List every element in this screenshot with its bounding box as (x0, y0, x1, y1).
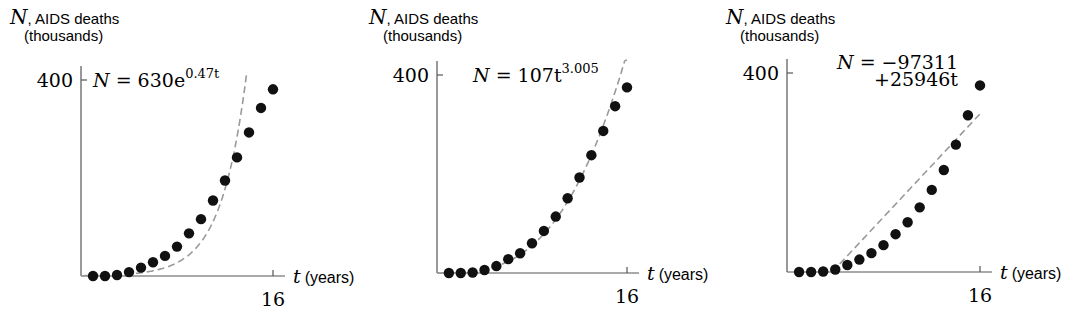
fit-equation-line2: +25946t (874, 68, 958, 90)
x-tick-label: 16 (968, 284, 992, 306)
x-axis-label: t(years) (647, 262, 708, 284)
chart-svg: N, AIDS deaths(thousands)40016t(years)N … (0, 0, 359, 321)
y-axis-unit: (thousands) (740, 27, 819, 44)
data-point (914, 202, 924, 212)
data-point (830, 264, 840, 274)
y-axis-label: N, AIDS deaths (9, 5, 119, 29)
data-point (172, 241, 182, 251)
data-point (551, 211, 561, 221)
data-point (806, 267, 816, 277)
data-point (136, 262, 146, 272)
data-point (975, 80, 985, 90)
chart-linear-fit: N, AIDS deaths(thousands)40016t(years)N … (718, 0, 1077, 321)
data-point (610, 101, 620, 111)
chart-power-fit: N, AIDS deaths(thousands)40016t(years)N … (359, 0, 718, 321)
data-point (124, 267, 134, 277)
data-point (963, 110, 973, 120)
data-point (244, 127, 254, 137)
x-axis-label: t(years) (293, 265, 354, 287)
fit-equation: N = 630e0.47t (92, 66, 220, 91)
chart-svg: N, AIDS deaths(thousands)40016t(years)N … (718, 0, 1077, 321)
data-point (574, 172, 584, 182)
data-point (539, 226, 549, 236)
y-tick-label: 400 (743, 62, 779, 84)
y-tick-label: 400 (393, 64, 429, 86)
chart-exponential-fit: N, AIDS deaths(thousands)40016t(years)N … (0, 0, 359, 321)
data-point (268, 84, 278, 94)
data-point (854, 254, 864, 264)
data-point (890, 229, 900, 239)
fit-equation: N = 107t3.005 (472, 61, 599, 86)
data-point (112, 270, 122, 280)
y-axis-label: N, AIDS deaths (725, 5, 835, 29)
data-point (527, 238, 537, 248)
data-point (878, 240, 888, 250)
data-point (232, 152, 242, 162)
data-point (220, 175, 230, 185)
data-point (467, 267, 477, 277)
data-point (256, 103, 266, 113)
data-point (794, 267, 804, 277)
data-point (503, 254, 513, 264)
y-tick-label: 400 (37, 69, 73, 91)
data-point (208, 195, 218, 205)
data-point (598, 126, 608, 136)
data-point (160, 251, 170, 261)
data-point (444, 268, 454, 278)
y-axis-unit: (thousands) (383, 27, 462, 44)
data-point (491, 261, 501, 271)
x-tick-label: 16 (261, 288, 285, 310)
fit-curve (832, 114, 980, 272)
y-axis-label: N, AIDS deaths (368, 5, 478, 29)
data-point (100, 271, 110, 281)
data-point (622, 82, 632, 92)
data-point (586, 150, 596, 160)
data-point (818, 266, 828, 276)
y-axis-unit: (thousands) (24, 27, 103, 44)
data-point (902, 217, 912, 227)
data-point (562, 193, 572, 203)
data-point (196, 214, 206, 224)
data-point (951, 139, 961, 149)
data-point (515, 248, 525, 258)
data-point (184, 228, 194, 238)
data-point (939, 165, 949, 175)
data-point (148, 257, 158, 267)
x-tick-label: 16 (615, 285, 639, 307)
data-point (842, 260, 852, 270)
data-point (456, 268, 466, 278)
data-point (866, 248, 876, 258)
data-point (479, 265, 489, 275)
chart-svg: N, AIDS deaths(thousands)40016t(years)N … (359, 0, 718, 321)
fit-curve (81, 74, 247, 276)
x-axis-label: t(years) (1000, 261, 1061, 283)
data-point (927, 185, 937, 195)
data-point (88, 271, 98, 281)
